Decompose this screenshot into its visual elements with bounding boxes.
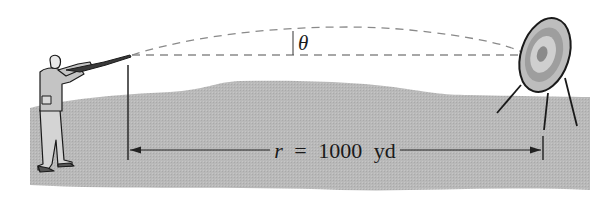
range-unit: yd (374, 138, 396, 163)
projectile-diagram: θ r = 1000 yd (0, 0, 604, 204)
range-equals: = (294, 138, 306, 163)
theta-label: θ (298, 31, 308, 55)
ground (30, 81, 590, 191)
trajectory-arc (132, 27, 522, 55)
range-variable: r (274, 138, 283, 163)
range-value: 1000 (318, 138, 362, 163)
